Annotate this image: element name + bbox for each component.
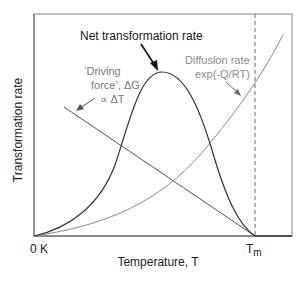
tm-tick-label: Tm <box>246 242 262 258</box>
net-transformation-curve <box>34 72 255 236</box>
diffusion-label-line2: exp(-Q/RT) <box>195 68 250 80</box>
net-rate-arrow-head <box>150 60 158 71</box>
driving-force-label-line3: ∝ ΔT <box>100 93 125 105</box>
x-axis-label: Temperature, T <box>117 255 199 269</box>
driving-force-arrow-head <box>76 104 84 111</box>
origin-tick-label: 0 K <box>30 242 48 256</box>
driving-force-line <box>64 107 255 236</box>
plot-frame <box>34 14 292 236</box>
driving-force-label-line2: force’, ΔG <box>91 79 140 91</box>
tm-subscript: m <box>253 247 261 258</box>
driving-force-label-line1: ‘Driving <box>84 65 121 77</box>
driving-force-arrow-shaft <box>80 98 95 108</box>
y-axis-label: Transformation rate <box>11 78 25 183</box>
transformation-rate-diagram: Net transformation rate ‘Driving force’,… <box>0 0 305 282</box>
net-rate-label: Net transformation rate <box>80 29 203 43</box>
diffusion-label-line1: Diffusion rate <box>185 54 250 66</box>
